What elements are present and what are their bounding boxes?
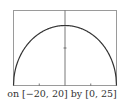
window-caption: on [−20, 20] by [0, 25] [0,88,124,99]
plot-area [0,0,124,88]
axes [39,11,91,86]
